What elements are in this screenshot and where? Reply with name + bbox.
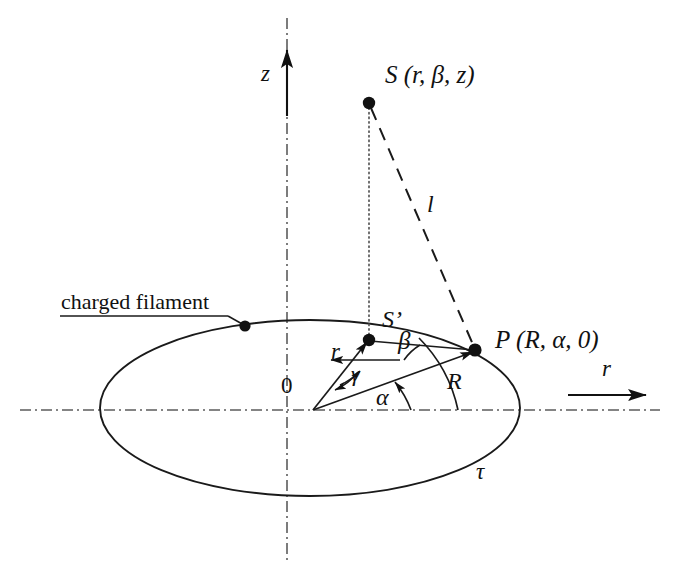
charged-filament-callout-label: charged filament — [61, 291, 209, 313]
callout-leader-charged-filament — [60, 316, 244, 325]
point-marker-S-prime — [363, 334, 375, 346]
origin-label: 0 — [281, 374, 293, 397]
angle-alpha-label: α — [376, 385, 389, 409]
arc-alpha — [395, 382, 411, 410]
radius-r-label: r — [331, 340, 340, 363]
point-marker-P — [468, 343, 481, 356]
point-marker-filament — [239, 320, 250, 331]
point-marker-S — [363, 97, 375, 109]
field-point-label: P (R, α, 0) — [495, 327, 599, 352]
z-axis-label: z — [261, 62, 270, 85]
radius-R-label: R — [447, 369, 462, 393]
distance-l-label: l — [427, 192, 434, 216]
ring-tau-label: τ — [476, 460, 484, 483]
physics-diagram-figure: z r S (r, β, z) S’ P (R, α, 0) 0 l r R α… — [0, 0, 674, 581]
angle-beta-label: β — [398, 328, 410, 353]
angle-gamma-label: γ — [351, 363, 360, 385]
r-axis-label: r — [602, 357, 611, 380]
source-point-label: S (r, β, z) — [385, 62, 475, 87]
